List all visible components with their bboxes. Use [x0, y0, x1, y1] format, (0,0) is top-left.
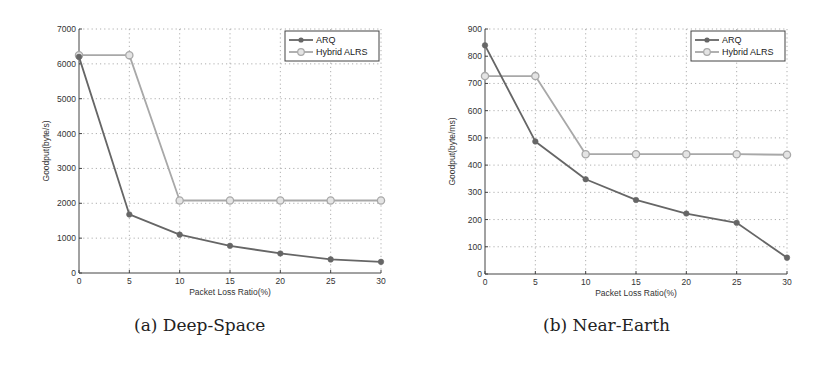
data-point-marker — [784, 255, 790, 261]
y-tick-label: 500 — [468, 133, 482, 143]
y-axis-label: Goodput(byte/s) — [41, 120, 51, 181]
data-point-marker — [127, 212, 133, 218]
x-axis-label: Packet Loss Ratio(%) — [595, 288, 677, 298]
data-point-marker — [481, 72, 488, 79]
y-tick-label: 100 — [468, 242, 482, 252]
x-tick-label: 15 — [225, 276, 235, 286]
figure-near-earth: 0510152025300100200300400500600700800900… — [416, 0, 832, 367]
y-axis-label: Goodput(byte/ms) — [447, 117, 457, 185]
grid-lines — [79, 29, 381, 273]
y-tick-label: 400 — [468, 160, 482, 170]
y-tick-label: 1000 — [57, 233, 76, 243]
data-point-marker — [583, 176, 589, 182]
x-tick-label: 0 — [77, 276, 82, 286]
data-point-marker — [377, 197, 384, 204]
legend-marker-open-circle-icon — [704, 49, 711, 56]
x-tick-label: 25 — [732, 277, 742, 287]
data-point-marker — [532, 72, 539, 79]
x-tick-label: 20 — [276, 276, 286, 286]
legend-label: Hybrid ALRS — [722, 47, 774, 57]
data-point-marker — [582, 151, 589, 158]
x-tick-label: 30 — [376, 276, 386, 286]
x-tick-label: 15 — [631, 277, 641, 287]
series-line — [79, 55, 381, 200]
data-point-marker — [632, 151, 639, 158]
y-tick-label: 0 — [71, 268, 76, 278]
data-point-marker — [633, 197, 639, 203]
data-point-marker — [177, 232, 183, 238]
data-point-marker — [533, 139, 539, 145]
y-tick-label: 2000 — [57, 198, 76, 208]
y-tick-label: 3000 — [57, 163, 76, 173]
legend-label: Hybrid ALRS — [316, 47, 368, 57]
x-tick-label: 0 — [483, 277, 488, 287]
x-tick-label: 10 — [581, 277, 591, 287]
legend-label: ARQ — [722, 35, 742, 45]
legend: ARQHybrid ALRS — [691, 31, 785, 61]
data-point-marker — [734, 220, 740, 226]
y-tick-label: 6000 — [57, 59, 76, 69]
y-tick-label: 200 — [468, 215, 482, 225]
legend: ARQHybrid ALRS — [285, 31, 379, 61]
data-point-marker — [733, 151, 740, 158]
data-point-marker — [226, 197, 233, 204]
figure-caption: (a) Deep-Space — [134, 315, 265, 335]
y-tick-label: 700 — [468, 78, 482, 88]
legend-marker-open-circle-icon — [298, 49, 305, 56]
figure-deep-space: 0510152025300100020003000400050006000700… — [0, 0, 416, 367]
legend-label: ARQ — [316, 35, 336, 45]
data-point-marker — [683, 151, 690, 158]
data-point-marker — [327, 197, 334, 204]
y-tick-label: 5000 — [57, 94, 76, 104]
series-hybrid-alrs — [481, 72, 790, 158]
x-tick-label: 30 — [782, 277, 792, 287]
x-tick-label: 25 — [326, 276, 336, 286]
data-point-marker — [126, 52, 133, 59]
data-point-marker — [176, 197, 183, 204]
y-tick-label: 7000 — [57, 24, 76, 34]
y-tick-label: 300 — [468, 187, 482, 197]
data-point-marker — [328, 257, 334, 263]
x-axis-label: Packet Loss Ratio(%) — [189, 287, 271, 297]
legend-marker-filled-circle-icon — [704, 37, 709, 42]
x-tick-label: 5 — [533, 277, 538, 287]
y-tick-label: 4000 — [57, 129, 76, 139]
y-tick-label: 900 — [468, 24, 482, 34]
data-point-marker — [76, 54, 82, 60]
chart-near-earth: 0510152025300100200300400500600700800900… — [416, 0, 832, 300]
chart-deep-space: 0510152025300100020003000400050006000700… — [0, 0, 416, 300]
x-tick-label: 5 — [127, 276, 132, 286]
data-point-marker — [482, 43, 488, 49]
x-tick-label: 10 — [175, 276, 185, 286]
data-point-marker — [227, 243, 233, 249]
data-point-marker — [783, 151, 790, 158]
data-point-marker — [684, 211, 690, 217]
y-tick-label: 600 — [468, 106, 482, 116]
legend-marker-filled-circle-icon — [298, 37, 303, 42]
figure-caption: (b) Near-Earth — [543, 315, 670, 335]
data-point-marker — [278, 251, 284, 257]
data-point-marker — [277, 197, 284, 204]
data-point-marker — [378, 259, 384, 265]
y-tick-label: 0 — [477, 269, 482, 279]
y-tick-label: 800 — [468, 51, 482, 61]
x-tick-label: 20 — [682, 277, 692, 287]
